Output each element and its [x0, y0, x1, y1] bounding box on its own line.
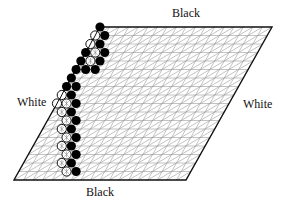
black-stone: [81, 65, 90, 74]
black-stone: [100, 31, 109, 40]
black-stone: [91, 65, 100, 74]
black-stone: [67, 124, 76, 133]
white-stone: [91, 30, 100, 40]
white-stone: [62, 133, 71, 142]
black-stone: [100, 48, 109, 57]
black-stone: [72, 65, 81, 74]
black-stone: [72, 150, 81, 159]
black-stone: [95, 39, 104, 48]
white-stone: [62, 167, 71, 176]
grid-line: [100, 104, 229, 181]
white-stone: [86, 56, 95, 65]
label-white-left: White: [17, 96, 46, 108]
black-stone: [67, 107, 76, 116]
white-stone: [91, 48, 100, 57]
white-stone: [57, 141, 66, 150]
grid-line: [119, 121, 219, 181]
black-stone: [67, 141, 76, 150]
white-stone: [57, 124, 66, 133]
hex-board-diagram: Black White White Black: [0, 0, 286, 205]
black-stone: [72, 167, 81, 176]
black-stone: [72, 116, 81, 125]
white-stone: [62, 150, 71, 159]
black-stone: [67, 90, 76, 99]
black-stone: [81, 48, 90, 57]
white-stone: [86, 39, 95, 49]
black-stone: [72, 82, 81, 91]
black-stone: [72, 133, 81, 142]
label-black-top: Black: [172, 7, 200, 19]
white-stone: [57, 107, 66, 116]
white-stone: [52, 98, 61, 108]
white-stone: [57, 158, 66, 167]
black-stone: [76, 56, 85, 65]
black-stone: [67, 73, 76, 82]
black-stone: [67, 158, 76, 167]
grid-line: [81, 87, 239, 181]
grid-line: [62, 70, 248, 181]
black-stone: [62, 82, 71, 91]
black-stone: [72, 99, 81, 108]
label-black-bottom: Black: [86, 186, 114, 198]
black-stone: [95, 22, 104, 31]
black-stone: [95, 56, 104, 65]
white-stone: [62, 99, 71, 108]
white-stone: [57, 90, 66, 100]
label-white-right: White: [243, 98, 272, 110]
white-stone: [62, 116, 71, 125]
